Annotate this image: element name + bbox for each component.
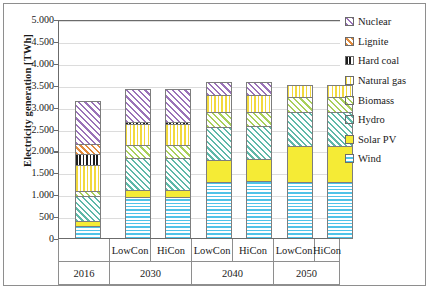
scenario-label-hicon: HiCon [233, 239, 274, 262]
y-tick-mark [54, 108, 58, 109]
legend-item-wind: Wind [345, 149, 425, 169]
y-tick-label: 2.500 [8, 125, 54, 135]
y-tick-label: 2.000 [8, 146, 54, 156]
year-label-2040: 2040 [192, 262, 274, 285]
bar-segment-biomass [246, 112, 272, 126]
scenario-label-hicon: HiCon [315, 239, 340, 262]
y-tick-label: 1.000 [8, 190, 54, 200]
y-tick-label: 3.500 [8, 81, 54, 91]
legend-item-lignite: Lignite [345, 32, 425, 52]
legend-label: Wind [358, 153, 381, 164]
bar-lowcon-2050 [287, 85, 313, 239]
legend-swatch-solar-icon [345, 135, 354, 144]
legend-swatch-hardcoal-icon [345, 56, 354, 65]
gridline [59, 65, 340, 66]
legend-label: Hydro [358, 114, 385, 125]
y-tick-mark [54, 151, 58, 152]
y-tick-mark [54, 20, 58, 21]
bar-segment-biomass [206, 112, 232, 126]
bar-segment-wind [327, 182, 353, 239]
legend-item-biomass: Biomass [345, 90, 425, 110]
scenario-label-lowcon: LowCon [192, 239, 233, 262]
legend-label: Biomass [358, 95, 394, 106]
y-tick-label: 5.000 [8, 15, 54, 25]
legend-swatch-gas-icon [345, 76, 354, 85]
scenario-label-hicon: HiCon [151, 239, 192, 262]
bar-segment-hardcoal [75, 154, 101, 165]
bar-segment-wind [125, 197, 151, 239]
y-tick-mark [54, 64, 58, 65]
y-tick-mark [54, 42, 58, 43]
y-tick-label: 4.500 [8, 37, 54, 47]
bar-segment-wind [165, 197, 191, 239]
legend-swatch-wind-icon [345, 154, 354, 163]
legend-item-hardcoal: Hard coal [345, 51, 425, 71]
bar-segment-nuclear [165, 89, 191, 122]
legend-swatch-nuclear-icon [345, 17, 354, 26]
legend-label: Hard coal [358, 55, 399, 66]
bar-segment-nuclear [125, 89, 151, 122]
bar-hicon-2040 [246, 82, 272, 239]
year-label-2016: 2016 [58, 262, 110, 285]
scenario-label-lowcon: LowCon [274, 239, 315, 262]
legend-label: Nuclear [358, 16, 391, 27]
bar-segment-hydro [246, 126, 272, 159]
bar-segment-biomass [287, 97, 313, 112]
legend-swatch-lignite-icon [345, 37, 354, 46]
year-label-2030: 2030 [110, 262, 192, 285]
y-axis-title: Electricity generation [TWh] [22, 6, 33, 196]
year-label-row: 2016203020402050 [58, 262, 340, 285]
bar-segment-hydro [125, 158, 151, 190]
bar-segment-gas [246, 95, 272, 112]
bar-segment-hydro [165, 158, 191, 190]
gridline [59, 21, 340, 22]
bar-segment-hydro [206, 127, 232, 160]
legend-label: Natural gas [358, 75, 406, 86]
y-tick-mark [54, 173, 58, 174]
y-tick-label: 4.000 [8, 59, 54, 69]
bar-lowcon-2040 [206, 82, 232, 239]
bar-segment-lignite [75, 144, 101, 155]
bar-segment-solar [206, 160, 232, 182]
year-label-2050: 2050 [274, 262, 340, 285]
plot-area [58, 20, 340, 239]
scenario-label-lowcon: LowCon [110, 239, 151, 262]
bar-segment-gas [206, 95, 232, 112]
chart-figure: Electricity generation [TWh] 5.0004.5004… [0, 0, 429, 295]
legend-item-gas: Natural gas [345, 71, 425, 91]
y-tick-label: 1.500 [8, 168, 54, 178]
legend-item-hydro: Hydro [345, 110, 425, 130]
bar-segment-solar [246, 159, 272, 181]
y-tick-mark [54, 86, 58, 87]
y-tick-label: 3.000 [8, 103, 54, 113]
bar-segment-hydro [287, 112, 313, 146]
bar-segment-solar [125, 190, 151, 197]
legend-label: Lignite [358, 36, 388, 47]
bar-segment-biomass [165, 145, 191, 157]
gridline [59, 43, 340, 44]
scenario-label-empty [58, 239, 110, 262]
y-tick-mark [54, 130, 58, 131]
bar-segment-solar [165, 190, 191, 197]
bar-segment-gas [165, 124, 191, 145]
bar-lowcon-2030 [125, 89, 151, 239]
y-tick-mark [54, 217, 58, 218]
y-tick-label: 0 [8, 234, 54, 244]
bar-segment-wind [206, 182, 232, 239]
legend-label: Solar PV [358, 134, 396, 145]
bar-segment-wind [246, 181, 272, 239]
category-axis: LowConHiConLowConHiConLowConHiCon 201620… [58, 239, 340, 285]
legend: NuclearLigniteHard coalNatural gasBiomas… [345, 12, 425, 169]
bar-segment-nuclear [246, 82, 272, 96]
bar-segment-wind [287, 182, 313, 239]
scenario-label-row: LowConHiConLowConHiConLowConHiCon [58, 239, 340, 262]
bar-segment-gas [125, 124, 151, 145]
bar-segment-gas [287, 85, 313, 96]
y-tick-mark [54, 195, 58, 196]
bar-hicon-2030 [165, 89, 191, 239]
legend-swatch-biomass-icon [345, 96, 354, 105]
bar-segment-nuclear [206, 82, 232, 96]
legend-item-nuclear: Nuclear [345, 12, 425, 32]
bar-2016 [75, 101, 101, 239]
legend-swatch-hydro-icon [345, 115, 354, 124]
